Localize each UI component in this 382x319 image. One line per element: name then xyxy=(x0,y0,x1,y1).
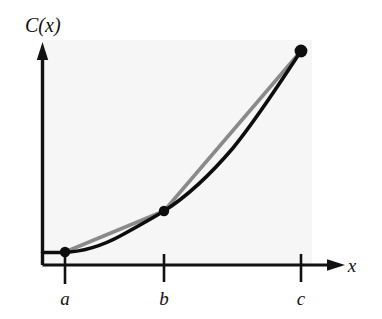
x-axis-arrowhead xyxy=(327,259,345,270)
point-a-marker xyxy=(60,247,70,257)
convex-cost-graph: C(x) x a b c xyxy=(0,0,382,319)
y-axis-label: C(x) xyxy=(25,14,61,37)
plot-area-background xyxy=(43,40,312,265)
point-b-marker xyxy=(159,206,169,216)
tick-label-b: b xyxy=(159,288,169,309)
point-c-marker xyxy=(295,45,308,58)
tick-label-c: c xyxy=(297,288,306,309)
x-axis-label: x xyxy=(347,255,357,276)
tick-label-a: a xyxy=(60,288,70,309)
figure-container: C(x) x a b c xyxy=(0,0,382,319)
